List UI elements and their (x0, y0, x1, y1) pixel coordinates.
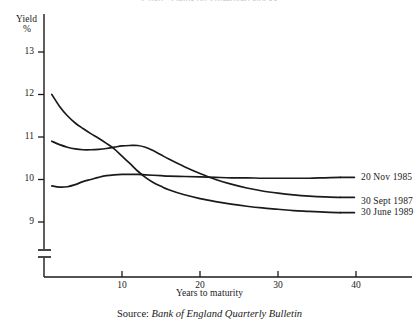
y-tick-label-13: 13 (16, 46, 34, 56)
source-publication: Bank of England Quarterly Bulletin (152, 308, 302, 319)
x-axis-title: Years to maturity (0, 288, 419, 298)
series-label-1985: 20 Nov 1985 (361, 172, 412, 182)
x-axis-ticks (122, 271, 356, 277)
series-curve-1987 (52, 141, 341, 197)
source-attribution: Source: Bank of England Quarterly Bullet… (0, 308, 419, 319)
axis-lines (44, 14, 412, 277)
series-leader-lines (340, 177, 354, 212)
yield-curve-figure: Chart: Yields on gilt-edged stocks (0, 0, 419, 326)
y-tick-label-12: 12 (16, 88, 34, 98)
chart-canvas (0, 0, 419, 326)
y-axis-ticks (38, 52, 44, 222)
series-curves (52, 95, 341, 213)
series-label-1987: 30 Sept 1987 (361, 196, 413, 206)
y-tick-label-10: 10 (16, 173, 34, 183)
y-axis-break-icon (38, 250, 51, 257)
y-axis-title-percent: % (23, 24, 31, 35)
source-prefix: Source: (117, 308, 149, 319)
y-tick-label-11: 11 (16, 131, 34, 141)
series-curve-1985 (52, 174, 341, 187)
series-label-1989: 30 June 1989 (361, 207, 413, 217)
y-tick-label-9: 9 (16, 216, 34, 226)
